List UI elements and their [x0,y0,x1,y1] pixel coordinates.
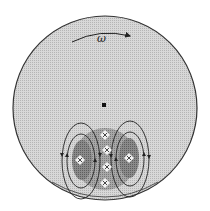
diagram-stage: ω [0,0,210,211]
center-point [102,103,106,107]
omega-label: ω [97,33,106,44]
